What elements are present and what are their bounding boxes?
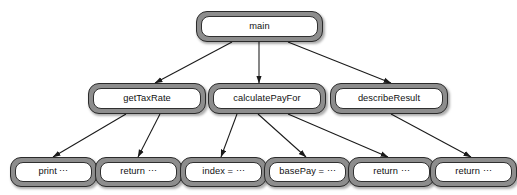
- node-calculatepayfor-body: calculatePayFor: [213, 88, 321, 109]
- edge-main-to-gettaxrate: [155, 42, 232, 83]
- node-leaf-basepay[interactable]: basePay = ⋯: [264, 157, 351, 187]
- node-describeresult-body: describeResult: [335, 88, 443, 109]
- node-leaf-print-label: print ⋯: [38, 167, 68, 176]
- node-leaf-index[interactable]: index = ⋯: [180, 157, 267, 187]
- node-gettaxrate-label: getTaxRate: [123, 94, 171, 103]
- edge-describeresult-to-return3: [391, 114, 471, 157]
- node-main[interactable]: main: [196, 11, 323, 42]
- node-main-label: main: [249, 22, 269, 31]
- node-leaf-return-2-body: return ⋯: [353, 162, 430, 182]
- node-leaf-return-1[interactable]: return ⋯: [95, 157, 182, 187]
- node-describeresult-label: describeResult: [358, 94, 420, 103]
- edge-calculatepayfor-to-index: [221, 114, 237, 157]
- edge-calculatepayfor-to-basepay: [258, 114, 306, 157]
- node-gettaxrate-body: getTaxRate: [93, 88, 201, 109]
- node-leaf-basepay-label: basePay = ⋯: [279, 167, 335, 176]
- node-main-body: main: [201, 16, 318, 37]
- node-leaf-return-1-label: return ⋯: [120, 167, 156, 176]
- call-tree-diagram: main getTaxRate calculatePayFor describe…: [0, 0, 517, 195]
- node-leaf-return-1-body: return ⋯: [100, 162, 177, 182]
- node-calculatepayfor[interactable]: calculatePayFor: [208, 83, 326, 114]
- edge-calculatepayfor-to-return2: [288, 114, 388, 157]
- node-leaf-return-3[interactable]: return ⋯: [430, 157, 517, 187]
- node-describeresult[interactable]: describeResult: [330, 83, 448, 114]
- node-leaf-index-body: index = ⋯: [185, 162, 262, 182]
- node-leaf-return-3-body: return ⋯: [435, 162, 512, 182]
- node-leaf-return-3-label: return ⋯: [455, 167, 491, 176]
- node-leaf-basepay-body: basePay = ⋯: [269, 162, 346, 182]
- node-leaf-return-2[interactable]: return ⋯: [348, 157, 435, 187]
- node-leaf-print[interactable]: print ⋯: [10, 157, 97, 187]
- node-gettaxrate[interactable]: getTaxRate: [88, 83, 206, 114]
- edge-gettaxrate-to-return1: [138, 114, 160, 157]
- node-leaf-index-label: index = ⋯: [202, 167, 244, 176]
- node-calculatepayfor-label: calculatePayFor: [233, 94, 300, 103]
- edge-gettaxrate-to-print: [53, 114, 126, 157]
- node-leaf-return-2-label: return ⋯: [373, 167, 409, 176]
- node-leaf-print-body: print ⋯: [15, 162, 92, 182]
- edge-main-to-describeresult: [288, 42, 391, 83]
